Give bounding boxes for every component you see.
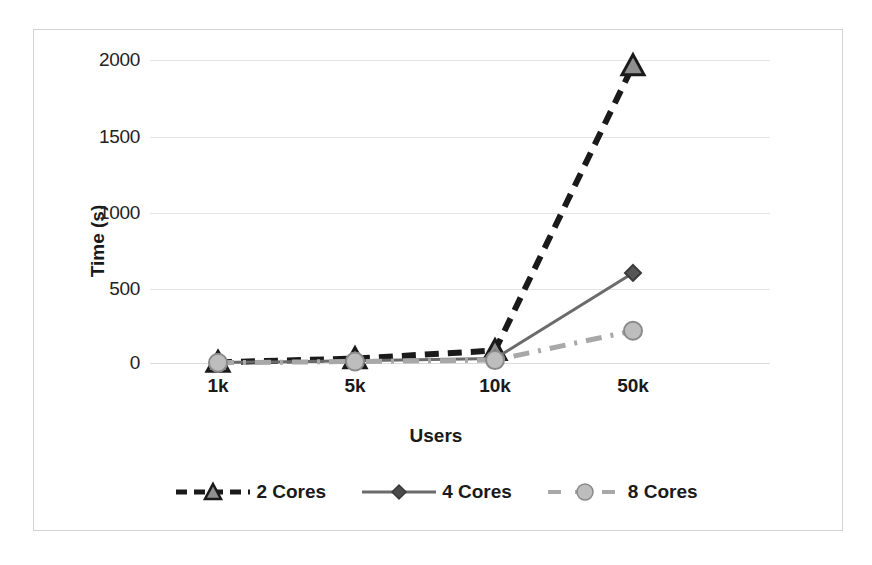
legend-entry-4-cores[interactable]: 4 Cores	[360, 481, 512, 503]
plot-area: 2000 1500 1000 500 0 1k 5k 10k 50k	[150, 60, 770, 380]
legend-key-4-cores	[360, 481, 438, 503]
x-axis-title: Users	[0, 425, 872, 447]
legend-key-2-cores	[174, 481, 252, 503]
gridline-0: 0	[150, 363, 770, 364]
ytick-label-500: 500	[109, 278, 140, 300]
legend-label-2-cores: 2 Cores	[256, 481, 326, 503]
gridline-500: 500	[150, 289, 770, 290]
legend-label-4-cores: 4 Cores	[442, 481, 512, 503]
gridline-2000: 2000	[150, 60, 770, 61]
legend-label-8-cores: 8 Cores	[628, 481, 698, 503]
chart-figure: Time (s) Users 2000 1500 1000 500 0 1k 5…	[0, 0, 872, 565]
legend-entry-8-cores[interactable]: 8 Cores	[546, 481, 698, 503]
xtick-label-50k: 50k	[617, 375, 649, 397]
xtick-label-5k: 5k	[344, 375, 365, 397]
ytick-label-0: 0	[130, 352, 140, 374]
gridline-1000: 1000	[150, 213, 770, 214]
legend-entry-2-cores[interactable]: 2 Cores	[174, 481, 326, 503]
legend-key-8-cores	[546, 481, 624, 503]
chart-legend: 2 Cores 4 Cores 8 Cores	[0, 481, 872, 503]
ytick-label-1500: 1500	[99, 126, 140, 148]
xtick-label-10k: 10k	[479, 375, 511, 397]
xtick-label-1k: 1k	[207, 375, 228, 397]
gridline-1500: 1500	[150, 137, 770, 138]
ytick-label-2000: 2000	[99, 49, 140, 71]
ytick-label-1000: 1000	[99, 202, 140, 224]
